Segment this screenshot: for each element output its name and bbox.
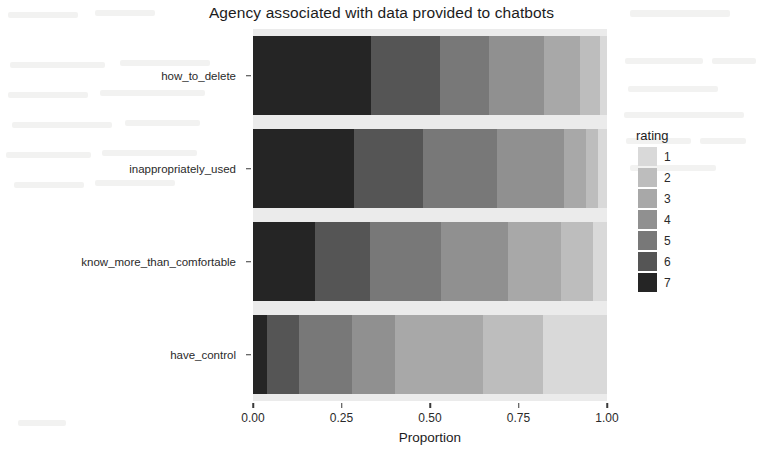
x-tick-mark: [341, 403, 343, 408]
segment-rating-7: [253, 315, 267, 394]
bar-inappropriately_used: [253, 129, 607, 208]
legend-label: 1: [664, 151, 671, 163]
x-tick-label-0.25: 0.25: [330, 411, 353, 425]
legend-row-3: 3: [638, 189, 738, 208]
legend-key-swatch: [638, 210, 657, 229]
segment-rating-2: [483, 315, 543, 394]
x-tick-label-1.00: 1.00: [595, 411, 618, 425]
segment-rating-4: [497, 129, 564, 208]
segment-rating-4: [489, 36, 544, 115]
x-tick-label-0.00: 0.00: [241, 411, 264, 425]
legend-label: 7: [664, 277, 671, 289]
segment-rating-7: [253, 222, 315, 301]
y-axis: Agency how_to_deleteinappropriately_used…: [0, 0, 251, 457]
segment-rating-4: [352, 315, 394, 394]
legend-label: 2: [664, 172, 671, 184]
legend-items: 1234567: [638, 147, 738, 292]
bar-how_to_delete: [253, 36, 607, 115]
segment-rating-1: [543, 315, 607, 394]
segment-rating-7: [253, 129, 354, 208]
segment-rating-6: [371, 36, 440, 115]
segment-rating-3: [544, 36, 579, 115]
legend-label: 5: [664, 235, 671, 247]
segment-rating-5: [299, 315, 352, 394]
x-tick-mark: [429, 403, 431, 408]
x-axis-title: Proportion: [253, 430, 607, 445]
bar-know_more_than_comfortable: [253, 222, 607, 301]
y-tick-label-inappropriately_used: inappropriately_used: [129, 163, 236, 175]
x-tick-mark: [518, 403, 520, 408]
segment-rating-3: [395, 315, 484, 394]
y-tick-label-know_more_than_comfortable: know_more_than_comfortable: [81, 256, 236, 268]
legend-row-6: 6: [638, 252, 738, 271]
segment-rating-2: [561, 222, 593, 301]
legend-key-swatch: [638, 252, 657, 271]
segment-rating-3: [508, 222, 561, 301]
segment-rating-6: [267, 315, 299, 394]
legend-key-swatch: [638, 231, 657, 250]
segment-rating-2: [580, 36, 600, 115]
y-tick-mark: [246, 168, 251, 170]
segment-rating-6: [354, 129, 423, 208]
segment-rating-6: [315, 222, 370, 301]
legend-row-2: 2: [638, 168, 738, 187]
segment-rating-4: [441, 222, 508, 301]
x-tick-mark: [252, 403, 254, 408]
segment-rating-7: [253, 36, 371, 115]
legend-row-5: 5: [638, 231, 738, 250]
y-tick-mark: [246, 75, 251, 77]
segment-rating-5: [440, 36, 490, 115]
plot-panel: [253, 29, 607, 401]
segment-rating-1: [600, 36, 607, 115]
legend-row-7: 7: [638, 273, 738, 292]
y-tick-mark: [246, 354, 251, 356]
legend-row-4: 4: [638, 210, 738, 229]
x-tick-label-0.50: 0.50: [418, 411, 441, 425]
legend-label: 3: [664, 193, 671, 205]
legend-label: 4: [664, 214, 671, 226]
segment-rating-1: [598, 129, 607, 208]
legend-key-swatch: [638, 168, 657, 187]
x-tick-mark: [606, 403, 608, 408]
y-tick-label-have_control: have_control: [170, 349, 236, 361]
segment-rating-5: [370, 222, 441, 301]
segment-rating-2: [586, 129, 598, 208]
x-tick-label-0.75: 0.75: [507, 411, 530, 425]
legend-label: 6: [664, 256, 671, 268]
legend: rating 1234567: [618, 128, 738, 292]
segment-rating-5: [423, 129, 497, 208]
segment-rating-3: [564, 129, 585, 208]
legend-title: rating: [636, 128, 738, 143]
chart-figure: Agency associated with data provided to …: [0, 0, 763, 457]
bar-have_control: [253, 315, 607, 394]
legend-row-1: 1: [638, 147, 738, 166]
legend-key-swatch: [638, 273, 657, 292]
segment-rating-1: [593, 222, 607, 301]
y-tick-label-how_to_delete: how_to_delete: [161, 70, 236, 82]
y-tick-mark: [246, 261, 251, 263]
legend-key-swatch: [638, 189, 657, 208]
legend-key-swatch: [638, 147, 657, 166]
